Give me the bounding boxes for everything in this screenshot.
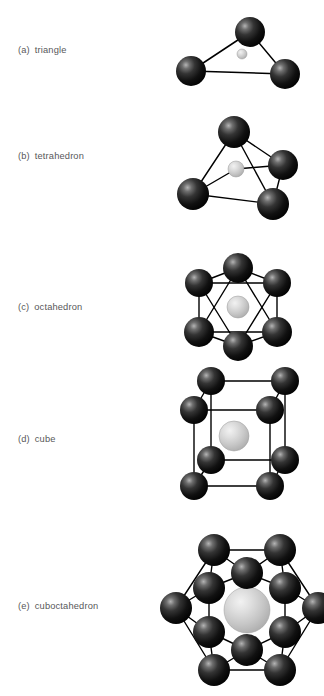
vertex-atom-sphere [270,59,300,89]
vertex-atom-sphere [231,634,263,666]
panel-name: octahedron [34,302,82,312]
vertex-atom-sphere [180,396,208,424]
panel-name: triangle [35,45,67,55]
vertex-atom-sphere [184,317,214,347]
vertex-atom-sphere [269,572,301,604]
coordination-polyhedra-figure: (a)triangle(b)tetrahedron(c)octahedron(d… [0,0,324,696]
diagram-cube [172,366,312,494]
diagram-cuboctahedron [162,528,318,692]
vertex-atom-sphere [257,188,289,220]
panel-label-tetrahedron: (b)tetrahedron [18,152,84,161]
panel-label-cube: (d)cube [18,435,56,444]
panel-tag: (a) [18,46,30,55]
vertex-atom-sphere [268,150,298,180]
diagram-tetrahedron [172,116,312,220]
vertex-atom-sphere [193,616,225,648]
vertex-atom-sphere [271,446,299,474]
vertex-atom-sphere [269,616,301,648]
center-atom-sphere [227,296,249,318]
vertex-atom-sphere [160,592,192,624]
vertex-atom-sphere [264,534,296,566]
vertex-atom-sphere [193,572,225,604]
vertex-atom-sphere [271,367,299,395]
panel-tag: (b) [18,152,30,161]
center-atom-sphere [224,587,270,633]
center-atom-sphere [219,421,249,451]
vertex-atom-sphere [264,654,296,686]
vertex-atom-sphere [262,317,292,347]
vertex-atom-sphere [256,472,284,500]
panel-label-cuboctahedron: (e)cuboctahedron [18,602,98,611]
vertex-atom-sphere [231,557,263,589]
panel-name: tetrahedron [35,151,84,161]
vertex-atom-sphere [180,472,208,500]
panel-label-octahedron: (c)octahedron [18,303,82,312]
vertex-atom-sphere [223,331,253,361]
vertex-atom-sphere [223,253,253,283]
center-atom-sphere [237,49,247,59]
panel-name: cuboctahedron [35,601,98,611]
diagram-triangle [172,8,312,104]
diagram-octahedron [172,256,312,366]
vertex-atom-sphere [263,269,291,297]
vertex-atom-sphere [302,592,324,624]
vertex-atom-sphere [176,56,206,86]
panel-name: cube [35,434,56,444]
vertex-atom-sphere [198,654,230,686]
panel-tag: (d) [18,435,30,444]
vertex-atom-sphere [256,396,284,424]
vertex-atom-sphere [197,367,225,395]
vertex-atom-sphere [198,534,230,566]
panel-label-triangle: (a)triangle [18,46,67,55]
vertex-atom-sphere [197,446,225,474]
vertex-atom-sphere [177,178,209,210]
vertex-atom-sphere [185,269,213,297]
panel-tag: (e) [18,602,30,611]
vertex-atom-sphere [218,116,250,148]
vertex-atom-sphere [235,17,265,47]
center-atom-sphere [228,161,244,177]
panel-tag: (c) [18,303,29,312]
